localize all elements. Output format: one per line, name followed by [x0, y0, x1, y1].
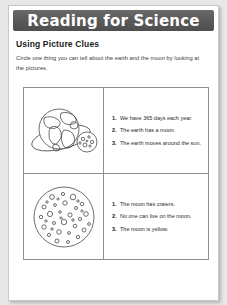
list-item[interactable]: We have 365 days each year.: [120, 113, 203, 123]
picture-clues-table: We have 365 days each year. The earth ha…: [23, 87, 209, 260]
moon-statements-cell: The moon has craters. No one can live on…: [104, 174, 209, 260]
list-item[interactable]: No one can live on the moon.: [120, 211, 203, 221]
instructions-text: Circle one thing you can tell about the …: [16, 54, 206, 74]
earth-statements-cell: We have 365 days each year. The earth ha…: [104, 88, 209, 174]
statement-list: We have 365 days each year. The earth ha…: [104, 113, 208, 149]
table-row: The moon has craters. No one can live on…: [24, 174, 209, 260]
table-row: We have 365 days each year. The earth ha…: [24, 88, 209, 174]
page-banner: Reading for Science: [13, 10, 214, 31]
banner-title: Reading for Science: [27, 12, 199, 30]
statement-list: The moon has craters. No one can live on…: [104, 199, 208, 235]
moon-illustration-cell: [24, 174, 104, 260]
list-item[interactable]: The moon is yellow.: [120, 224, 203, 234]
list-item[interactable]: The moon has craters.: [120, 199, 203, 209]
earth-with-moon-icon: [28, 100, 100, 162]
cratered-moon-icon: [30, 183, 98, 251]
list-item[interactable]: The earth has a moon.: [120, 125, 203, 135]
section-title: Using Picture Clues: [16, 39, 99, 49]
list-item[interactable]: The earth moves around the sun.: [120, 138, 203, 148]
worksheet-page: Reading for Science Using Picture Clues …: [8, 5, 219, 301]
earth-illustration-cell: [24, 88, 104, 174]
